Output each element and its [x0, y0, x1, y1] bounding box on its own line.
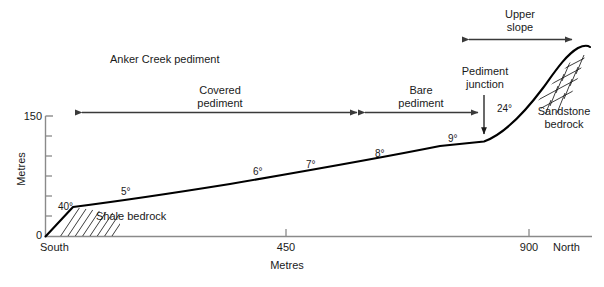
x-tick-450: 450: [258, 241, 314, 254]
x-axis-north-label: North: [553, 241, 580, 254]
shale-bedrock-label: Shale bedrock: [96, 210, 166, 223]
slope-angle-8: 8°: [375, 148, 385, 159]
y-axis: [46, 116, 54, 236]
slope-angle-9: 9°: [448, 133, 458, 144]
x-axis: [46, 229, 593, 237]
slope-angle-24: 24°: [497, 103, 512, 114]
y-tick-0: 0: [20, 229, 42, 242]
x-tick-900: 900: [501, 241, 557, 254]
y-tick-150: 150: [20, 110, 42, 123]
x-axis-south-label: South: [40, 241, 69, 254]
slope-angle-40: 40°: [58, 201, 73, 212]
pediment-junction-label: Pediment junction: [440, 65, 530, 91]
slope-angle-7: 7°: [306, 159, 316, 170]
slope-angle-5: 5°: [121, 186, 131, 197]
y-axis-label: Metres: [15, 139, 27, 199]
covered-pediment-label: Covered pediment: [170, 84, 270, 110]
x-axis-label: Metres: [242, 259, 332, 272]
area-title-label: Anker Creek pediment: [110, 53, 219, 66]
upper-slope-label: Upper slope: [480, 8, 560, 34]
sandstone-bedrock-label: Sandstone bedrock: [524, 105, 604, 131]
slope-angle-6: 6°: [253, 166, 263, 177]
